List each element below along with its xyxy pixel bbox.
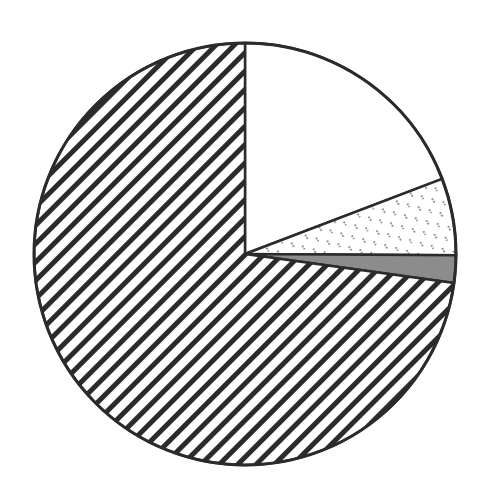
pie-slices xyxy=(34,43,456,465)
pie-chart xyxy=(0,0,487,495)
